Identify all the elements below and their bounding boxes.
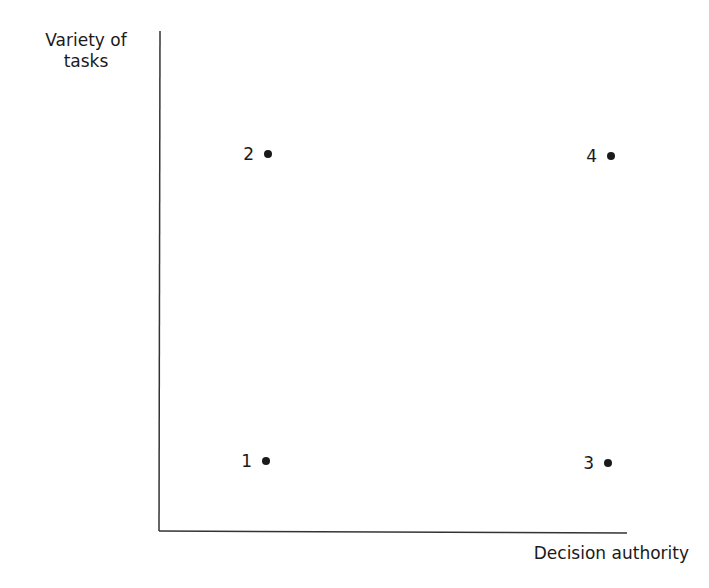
x-axis-line bbox=[159, 531, 627, 533]
x-axis-label: Decision authority bbox=[534, 543, 689, 563]
point-1-label: 1 bbox=[241, 451, 252, 471]
points-group: 1234 bbox=[241, 144, 615, 473]
point-2-label: 2 bbox=[243, 144, 254, 164]
point-1-marker bbox=[262, 457, 270, 465]
y-axis-line bbox=[159, 31, 160, 531]
point-4-marker bbox=[607, 152, 615, 160]
point-4-label: 4 bbox=[586, 146, 597, 166]
point-2-marker bbox=[264, 150, 272, 158]
chart-canvas: 1234 bbox=[0, 0, 709, 588]
point-3-marker bbox=[604, 459, 612, 467]
point-3-label: 3 bbox=[583, 453, 594, 473]
